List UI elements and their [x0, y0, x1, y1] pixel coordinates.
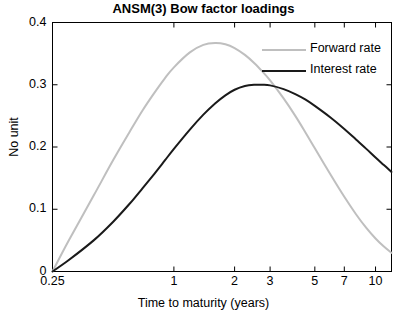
y-axis-ticks: [53, 23, 392, 272]
y-axis-label: No unit: [7, 100, 21, 174]
figure-container: ANSM(3) Bow factor loadings Time to matu…: [0, 0, 407, 320]
data-series: [53, 43, 392, 271]
axes-box: [53, 23, 392, 272]
y-tick-label: 0: [1, 264, 47, 278]
series-line: [53, 43, 392, 271]
y-tick-label: 0.2: [1, 139, 47, 153]
x-tick-label: 10: [351, 274, 401, 288]
y-tick-label: 0.1: [1, 201, 47, 215]
x-axis-label: Time to maturity (years): [0, 296, 407, 310]
legend-item-label: Interest rate: [310, 62, 377, 76]
legend-sample-lines: [262, 50, 306, 71]
legend-item-label: Forward rate: [310, 41, 381, 55]
y-tick-label: 0.4: [1, 15, 47, 29]
y-tick-label: 0.3: [1, 77, 47, 91]
x-tick-label: 3: [245, 274, 295, 288]
x-tick-label: 1: [149, 274, 199, 288]
